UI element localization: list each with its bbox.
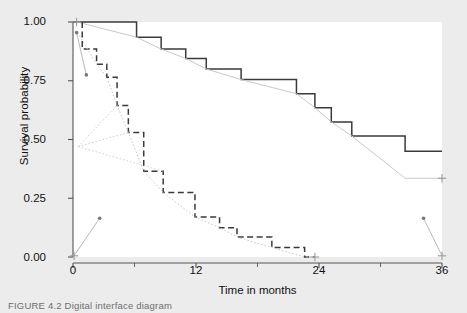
x-axis-label: Time in months <box>73 284 442 296</box>
series-2-step-dashed <box>82 22 315 257</box>
x-tick-label-0: 0 <box>53 264 93 276</box>
y-tick-label-4: 1.00 <box>0 15 46 27</box>
x-tick-label-1: 12 <box>176 264 216 276</box>
series-6-line-dotted <box>78 147 163 172</box>
x-tick-label-2: 24 <box>299 264 339 276</box>
censor-plus-origin-bottom <box>70 252 78 260</box>
y-tick-label-2: 0.50 <box>0 133 46 145</box>
y-tick-label-3: 0.75 <box>0 74 46 86</box>
series-4-line-dotted <box>78 105 117 146</box>
series-5-line-dotted <box>78 132 128 146</box>
point-upper-left-b <box>85 73 89 77</box>
series-8-line-solid <box>74 218 100 256</box>
figure-container: Survival probability Time in months 0.00… <box>0 0 467 313</box>
censor-plus-end-dashed <box>311 253 319 261</box>
figure-caption: FIGURE 4.2 Digital interface diagram <box>8 300 463 313</box>
censor-plus-end-bottom <box>438 252 446 260</box>
censor-plus-origin-top <box>72 18 80 26</box>
series-1-line-solid <box>77 22 442 178</box>
point-lower-left <box>98 216 102 220</box>
y-tick-label-0: 0.00 <box>0 251 46 263</box>
y-tick-label-1: 0.25 <box>0 192 46 204</box>
series-3-line-dotted <box>78 33 315 257</box>
x-tick-label-3: 36 <box>422 264 462 276</box>
series-9-line-solid <box>424 218 442 256</box>
point-lower-right <box>422 216 426 220</box>
censor-plus-end-solid <box>438 174 446 182</box>
point-upper-left-a <box>75 31 79 35</box>
